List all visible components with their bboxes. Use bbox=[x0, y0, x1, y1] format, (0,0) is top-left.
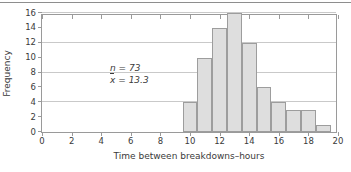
histogram-bar bbox=[212, 28, 227, 132]
y-axis-title-text: Frequency bbox=[3, 50, 12, 97]
annotation-mean-value: 13.3 bbox=[129, 75, 149, 85]
histogram-figure: Frequency 0246810121416 0246810121416182… bbox=[0, 0, 351, 172]
y-tick-10 bbox=[38, 57, 42, 58]
annotation-sample-size: n = 73 bbox=[110, 62, 149, 74]
x-tick-label-2: 2 bbox=[69, 137, 74, 146]
x-tick-label-16: 16 bbox=[273, 137, 284, 146]
y-tick-label-14: 14 bbox=[25, 24, 36, 33]
annotation-mean-symbol: x bbox=[110, 74, 115, 86]
x-tick-top-4 bbox=[101, 15, 102, 19]
y-tick-2 bbox=[38, 116, 42, 117]
y-axis-title: Frequency bbox=[1, 14, 13, 133]
y-tick-label-10: 10 bbox=[25, 53, 36, 62]
x-tick-top-14 bbox=[249, 15, 250, 19]
x-tick-top-16 bbox=[279, 15, 280, 19]
x-tick-label-0: 0 bbox=[39, 137, 44, 146]
x-tick-top-2 bbox=[72, 15, 73, 19]
x-tick-top-18 bbox=[308, 15, 309, 19]
histogram-bar bbox=[183, 102, 198, 132]
statistics-annotation: n = 73 x = 13.3 bbox=[110, 62, 149, 86]
histogram-bar bbox=[316, 125, 331, 132]
histogram-bar bbox=[227, 13, 242, 132]
histogram-bar bbox=[301, 110, 316, 132]
x-axis-title: Time between breakdowns–hours bbox=[41, 152, 337, 161]
annotation-n-equals: = bbox=[119, 63, 127, 73]
x-tick-top-6 bbox=[131, 15, 132, 19]
annotation-n-value: 73 bbox=[129, 63, 140, 73]
y-tick-label-16: 16 bbox=[25, 9, 36, 18]
y-tick-14 bbox=[38, 27, 42, 28]
x-tick-label-10: 10 bbox=[185, 137, 196, 146]
plot-area: 0246810121416 02468101214161820 n = 73 x… bbox=[41, 14, 337, 133]
y-tick-label-6: 6 bbox=[31, 83, 36, 92]
histogram-bar bbox=[242, 43, 257, 132]
y-tick-label-8: 8 bbox=[31, 68, 36, 77]
histogram-bar bbox=[286, 110, 301, 132]
gridline-y-16 bbox=[42, 12, 336, 13]
x-tick-label-18: 18 bbox=[303, 137, 314, 146]
x-tick-label-12: 12 bbox=[214, 137, 225, 146]
histogram-bar bbox=[197, 58, 212, 132]
y-tick-label-12: 12 bbox=[25, 39, 36, 48]
y-tick-16 bbox=[38, 12, 42, 13]
x-tick-label-14: 14 bbox=[244, 137, 255, 146]
annotation-n-symbol: n bbox=[110, 63, 116, 73]
y-tick-label-4: 4 bbox=[31, 98, 36, 107]
y-tick-label-2: 2 bbox=[31, 113, 36, 122]
x-tick-label-20: 20 bbox=[333, 137, 344, 146]
y-tick-8 bbox=[38, 72, 42, 73]
y-tick-4 bbox=[38, 101, 42, 102]
x-tick-top-12 bbox=[220, 15, 221, 19]
y-tick-12 bbox=[38, 42, 42, 43]
x-tick-label-4: 4 bbox=[98, 137, 103, 146]
x-tick-top-20 bbox=[338, 15, 339, 19]
y-tick-label-0: 0 bbox=[31, 128, 36, 137]
x-tick-top-10 bbox=[190, 15, 191, 19]
histogram-bar bbox=[257, 87, 272, 132]
gridline-y-8 bbox=[42, 72, 336, 73]
x-tick-top-0 bbox=[42, 15, 43, 19]
x-tick-label-8: 8 bbox=[158, 137, 163, 146]
gridline-y-12 bbox=[42, 42, 336, 43]
x-tick-label-6: 6 bbox=[128, 137, 133, 146]
annotation-mean-equals: = bbox=[118, 75, 126, 85]
x-tick-top-8 bbox=[160, 15, 161, 19]
annotation-mean: x = 13.3 bbox=[110, 74, 149, 86]
y-tick-6 bbox=[38, 86, 42, 87]
histogram-bar bbox=[271, 102, 286, 132]
x-axis-title-text: Time between breakdowns–hours bbox=[114, 151, 265, 161]
